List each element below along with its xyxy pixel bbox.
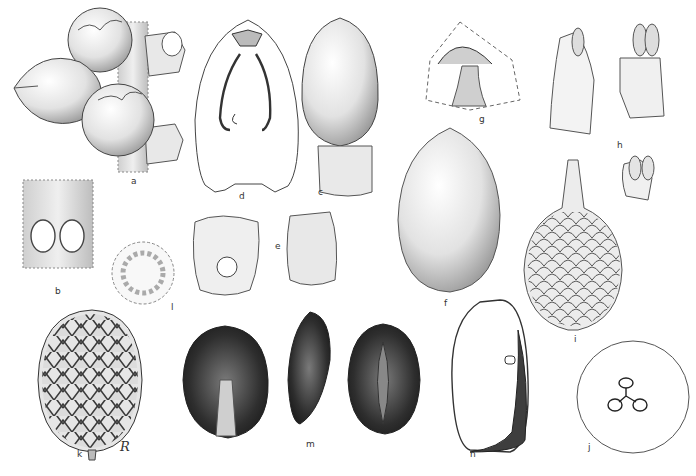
figure-f: [398, 128, 500, 292]
figure-m: [183, 312, 420, 438]
figure-g: [426, 22, 520, 110]
label-b: b: [55, 287, 61, 296]
figure-k: [38, 310, 142, 460]
figure-a: [14, 8, 185, 172]
label-i: i: [574, 335, 577, 344]
label-m: m: [306, 440, 315, 449]
label-n: n: [470, 450, 476, 459]
figure-e: [193, 212, 336, 295]
figure-l: [112, 242, 174, 304]
label-c: c: [318, 188, 323, 197]
label-j: j: [588, 443, 591, 452]
figure-j: [577, 341, 689, 453]
botanical-plate: a b c d e f g h i j k l m n R: [0, 0, 696, 476]
figure-i: [524, 160, 622, 330]
figure-c: [302, 18, 378, 196]
plate-illustrations: [0, 0, 696, 476]
label-h: h: [617, 141, 623, 150]
label-k: k: [77, 450, 82, 459]
label-d: d: [239, 192, 245, 201]
label-a: a: [131, 177, 137, 186]
figure-n: [452, 300, 528, 452]
label-f: f: [444, 299, 447, 308]
label-g: g: [479, 115, 485, 124]
artist-signature: R: [120, 440, 130, 453]
label-e: e: [275, 242, 281, 251]
label-l: l: [171, 303, 174, 312]
figure-d: [195, 20, 298, 192]
figure-b: [23, 180, 93, 268]
